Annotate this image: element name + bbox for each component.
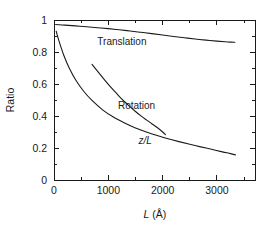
chart-figure: 0100020003000 00.20.40.60.81 Translation… xyxy=(0,0,271,230)
y-tick-label: 0.4 xyxy=(32,110,47,122)
x-axis-tick-labels: 0100020003000 xyxy=(51,184,229,196)
y-tick-label: 0.6 xyxy=(32,78,47,90)
y-axis-tick-labels: 00.20.40.60.81 xyxy=(32,14,47,186)
x-tick-label: 2000 xyxy=(151,184,175,196)
x-tick-label: 1000 xyxy=(97,184,121,196)
curve-label-rotation: Rotation xyxy=(118,100,155,111)
x-axis-unit: (Å) xyxy=(149,208,166,220)
y-tick-label: 0.2 xyxy=(32,142,47,154)
x-axis-title-text: L (Å) xyxy=(144,208,167,220)
x-tick-label: 3000 xyxy=(205,184,229,196)
svg-text:Ratio: Ratio xyxy=(4,88,16,113)
x-axis-title: L (Å) xyxy=(144,208,167,220)
chart-canvas: 0100020003000 00.20.40.60.81 Translation… xyxy=(0,0,271,230)
y-tick-label: 0.8 xyxy=(32,46,47,58)
curve-annotations-group: TranslationRotationz/L xyxy=(97,36,155,146)
x-tick-label: 0 xyxy=(51,184,57,196)
curve-label-z-l: z/L xyxy=(138,135,152,146)
y-axis-title: Ratio xyxy=(4,88,16,113)
y-tick-label: 1 xyxy=(41,14,47,26)
y-tick-label: 0 xyxy=(41,174,47,186)
curve-label-translation: Translation xyxy=(97,36,146,47)
